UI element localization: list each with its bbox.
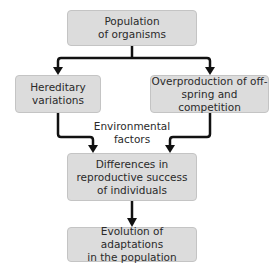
node-hereditary-variations: Hereditary variations: [15, 75, 101, 113]
environmental-factors-label: Environmental factors: [92, 120, 172, 146]
node-overproduction-text: Overproduction of off- spring and compet…: [151, 75, 268, 114]
node-differences: Differences in reproductive success of i…: [67, 153, 197, 201]
edge-overproduction-to-differences: [170, 113, 210, 146]
node-population-text: Population of organisms: [98, 15, 166, 41]
edge-population-to-hereditary: [58, 58, 132, 68]
node-evolution: Evolution of adaptations in the populati…: [67, 227, 197, 262]
node-evolution-text: Evolution of adaptations in the populati…: [68, 225, 196, 264]
arrowhead-differences-right: [165, 145, 175, 153]
edge-hereditary-to-differences: [58, 113, 93, 146]
node-hereditary-text: Hereditary variations: [30, 81, 86, 107]
node-differences-text: Differences in reproductive success of i…: [77, 158, 188, 197]
node-overproduction: Overproduction of off- spring and compet…: [150, 75, 269, 113]
arrowhead-hereditary: [53, 67, 63, 75]
node-population: Population of organisms: [67, 10, 197, 46]
edge-population-to-overproduction: [132, 58, 210, 68]
arrowhead-differences-left: [88, 145, 98, 153]
